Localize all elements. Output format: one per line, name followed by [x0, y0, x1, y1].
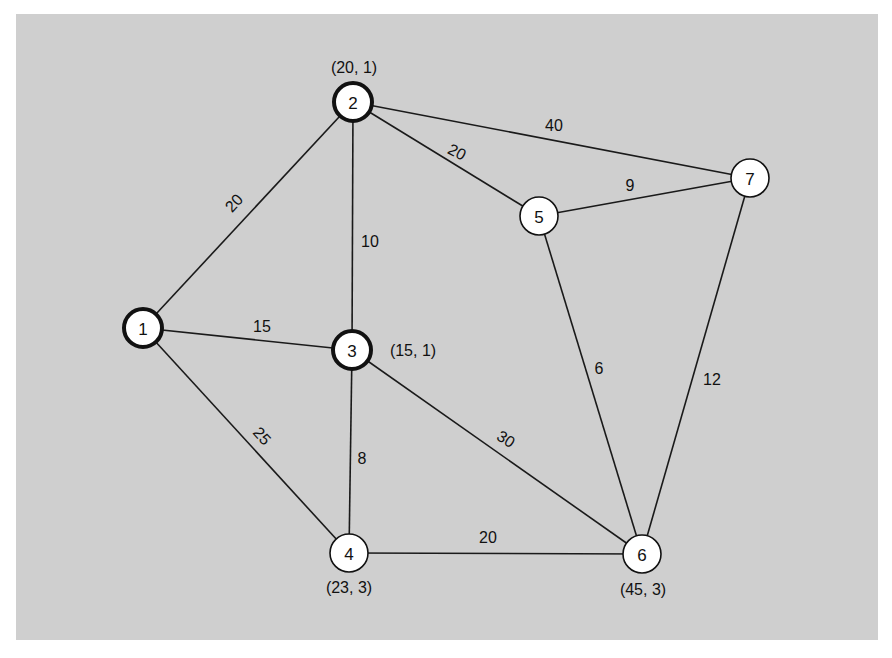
- node-1: 1: [124, 309, 162, 347]
- edge-weight-2-3: 10: [361, 233, 379, 250]
- edge-2-7: [353, 102, 750, 178]
- annotations-layer: (20, 1)(15, 1)(23, 3)(45, 3): [326, 59, 666, 598]
- node-label-7: 7: [745, 170, 754, 189]
- edge-5-7: [539, 178, 750, 216]
- node-label-1: 1: [138, 320, 147, 339]
- edge-weight-1-3: 15: [253, 318, 271, 335]
- edge-1-3: [143, 328, 352, 350]
- edge-weight-1-4: 25: [250, 424, 275, 449]
- edge-1-2: [143, 102, 353, 328]
- edge-5-6: [539, 216, 642, 554]
- edge-weight-6-7: 12: [703, 371, 721, 388]
- edge-weight-3-4: 8: [358, 450, 367, 467]
- edge-3-6: [352, 350, 642, 554]
- node-label-4: 4: [344, 545, 353, 564]
- node-label-5: 5: [534, 208, 543, 227]
- edge-labels-layer: 201525102040830209612: [222, 117, 721, 546]
- node-annotation-6: (45, 3): [620, 581, 666, 598]
- edge-2-3: [352, 102, 353, 350]
- edge-3-4: [349, 350, 352, 553]
- node-label-6: 6: [637, 546, 646, 565]
- node-label-2: 2: [348, 94, 357, 113]
- edge-weight-5-6: 6: [595, 360, 604, 377]
- edge-weight-3-6: 30: [494, 427, 518, 451]
- edges-layer: [143, 102, 750, 554]
- nodes-layer: 1234567: [124, 83, 769, 573]
- edge-4-6: [349, 553, 642, 554]
- edge-6-7: [642, 178, 750, 554]
- node-annotation-2: (20, 1): [331, 59, 377, 76]
- node-annotation-3: (15, 1): [390, 342, 436, 359]
- node-annotation-4: (23, 3): [326, 579, 372, 596]
- node-7: 7: [731, 159, 769, 197]
- node-5: 5: [520, 197, 558, 235]
- graph-canvas: 201525102040830209612 1234567 (20, 1)(15…: [0, 0, 892, 658]
- edge-weight-4-6: 20: [479, 529, 497, 546]
- edge-weight-5-7: 9: [626, 177, 635, 194]
- edge-weight-2-7: 40: [545, 117, 563, 134]
- edge-weight-1-2: 20: [222, 191, 247, 216]
- node-3: 3: [333, 331, 371, 369]
- edge-1-4: [143, 328, 349, 553]
- node-4: 4: [330, 534, 368, 572]
- node-6: 6: [623, 535, 661, 573]
- node-label-3: 3: [347, 342, 356, 361]
- node-2: 2: [334, 83, 372, 121]
